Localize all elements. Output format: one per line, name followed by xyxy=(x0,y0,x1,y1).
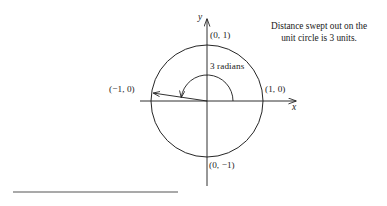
x-axis-label: x xyxy=(292,102,296,113)
caption-line-1: Distance swept out on the xyxy=(255,20,383,32)
point-label-right: (1, 0) xyxy=(265,84,286,95)
figure-caption: Distance swept out on the unit circle is… xyxy=(255,20,383,44)
point-label-left: (−1, 0) xyxy=(109,84,135,95)
point-label-top: (0, 1) xyxy=(210,30,231,41)
terminal-ray xyxy=(154,93,208,101)
y-axis-label: y xyxy=(198,12,202,23)
unit-circle-figure: (0, 1) (−1, 0) (1, 0) (0, −1) 3 radians … xyxy=(0,0,387,206)
caption-line-2: unit circle is 3 units. xyxy=(255,32,383,44)
angle-label: 3 radians xyxy=(210,61,244,72)
point-label-bottom: (0, −1) xyxy=(209,160,235,171)
